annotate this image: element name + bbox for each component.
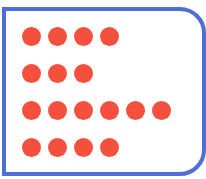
dot — [100, 101, 119, 120]
dot — [22, 27, 41, 46]
dot-frame — [2, 7, 206, 176]
dot-row-3 — [22, 101, 171, 120]
dot — [48, 27, 67, 46]
dot — [74, 101, 93, 120]
dot — [100, 138, 119, 157]
dot — [126, 101, 145, 120]
dot — [74, 27, 93, 46]
dot — [48, 138, 67, 157]
dot — [152, 101, 171, 120]
dot-row-1 — [22, 27, 119, 46]
dot — [48, 101, 67, 120]
dot — [22, 64, 41, 83]
dot-row-2 — [22, 64, 93, 83]
dot-row-4 — [22, 138, 119, 157]
dot — [74, 138, 93, 157]
dot — [22, 101, 41, 120]
dot — [74, 64, 93, 83]
dot — [48, 64, 67, 83]
dot — [100, 27, 119, 46]
dot — [22, 138, 41, 157]
